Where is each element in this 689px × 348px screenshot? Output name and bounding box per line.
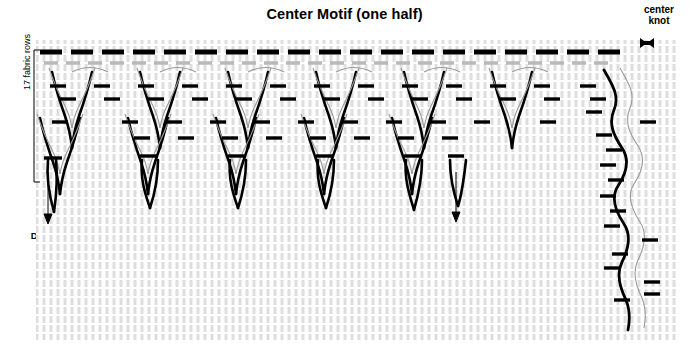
- pattern-chart-svg: [0, 0, 689, 348]
- diagram-canvas: Center Motif (one half) center knot 17 f…: [0, 0, 689, 348]
